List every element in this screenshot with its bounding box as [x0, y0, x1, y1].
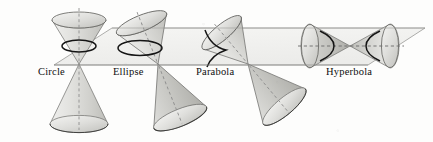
conic-sections-figure: Circle Ellipse Parabola Hyperbola: [0, 0, 433, 142]
label-circle: Circle: [38, 66, 65, 77]
label-ellipse: Ellipse: [113, 66, 144, 77]
label-hyperbola: Hyperbola: [326, 66, 372, 77]
label-parabola: Parabola: [196, 66, 234, 77]
